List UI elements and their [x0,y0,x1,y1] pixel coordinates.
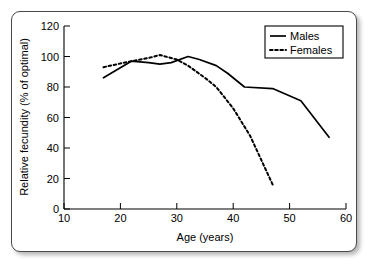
x-axis-title: Age (years) [177,231,234,243]
x-tick-label-40: 40 [227,212,239,224]
x-tick-label-10: 10 [58,212,70,224]
y-axis-ticks: 120 100 80 60 40 20 0 [41,20,70,215]
y-tick-label-60: 60 [47,112,59,124]
series-line-females [103,55,272,185]
y-axis-title: Relative fecundity (% of optimal) [18,38,30,196]
x-tick-label-30: 30 [171,212,183,224]
x-tick-label-50: 50 [283,212,295,224]
x-tick-label-60: 60 [340,212,352,224]
y-tick-label-80: 80 [47,81,59,93]
y-tick-label-100: 100 [41,51,59,63]
series-line-males [103,57,329,138]
figure-card: 120 100 80 60 40 20 0 10 20 30 40 50 60 … [11,11,357,252]
chart-legend: Males Females [265,26,343,58]
x-axis-ticks: 10 20 30 40 50 60 [58,203,352,224]
legend-label-males: Males [290,30,320,42]
y-tick-label-120: 120 [41,20,59,32]
x-tick-label-20: 20 [114,212,126,224]
legend-label-females: Females [290,44,333,56]
y-tick-label-20: 20 [47,173,59,185]
y-tick-label-40: 40 [47,142,59,154]
fecundity-line-chart: 120 100 80 60 40 20 0 10 20 30 40 50 60 … [12,12,355,250]
